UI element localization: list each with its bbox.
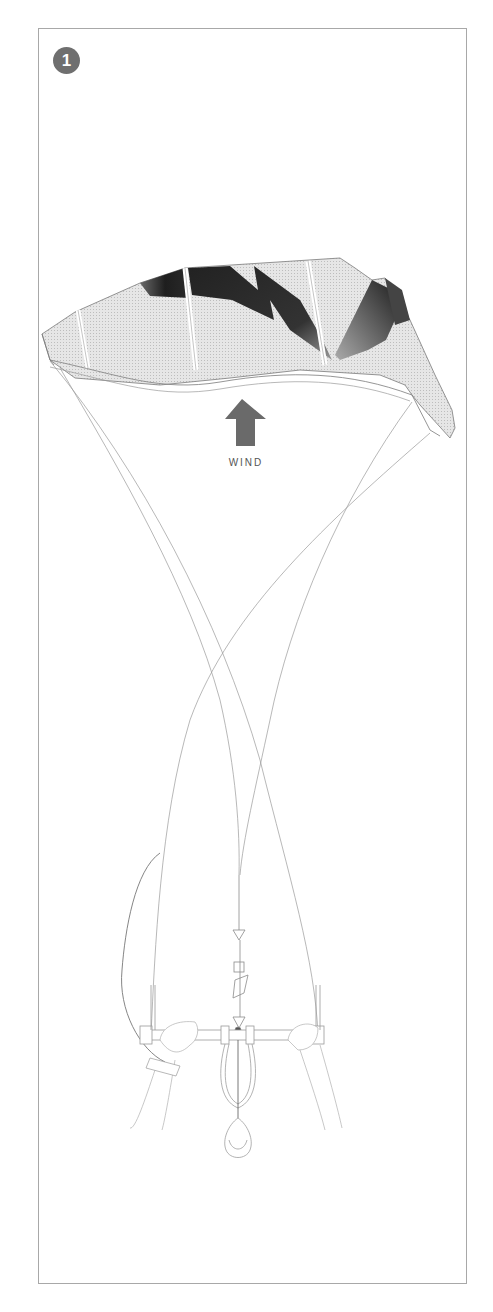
center-line — [233, 875, 248, 1033]
wind-label: WIND — [221, 457, 271, 468]
kite-illustration — [0, 0, 493, 1312]
wind-arrow-icon — [225, 399, 266, 446]
chicken-loop — [221, 1040, 256, 1158]
